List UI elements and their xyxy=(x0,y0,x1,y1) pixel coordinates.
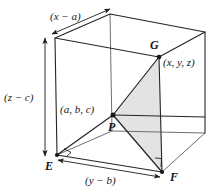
shaded-triangle-pgf xyxy=(113,57,162,172)
vertex-dot-f xyxy=(160,170,164,174)
label-coord-g: (x, y, z) xyxy=(163,57,195,68)
label-vertex-e: E xyxy=(45,160,53,172)
label-vertex-g: G xyxy=(150,39,159,51)
label-dim-z: (z − c) xyxy=(4,92,33,103)
label-coord-p: (a, b, c) xyxy=(60,104,94,115)
label-vertex-f: F xyxy=(170,171,178,183)
vertex-dot-e xyxy=(55,153,59,157)
label-dim-x: (x − a) xyxy=(50,11,81,22)
label-dim-y: (y − b) xyxy=(85,175,116,186)
label-vertex-p: P xyxy=(108,121,115,133)
geometry-figure: (x − a) (z − c) (y − b) (a, b, c) (x, y,… xyxy=(0,0,210,192)
vertex-dot-p xyxy=(111,113,116,118)
vertex-dot-g xyxy=(157,55,162,60)
